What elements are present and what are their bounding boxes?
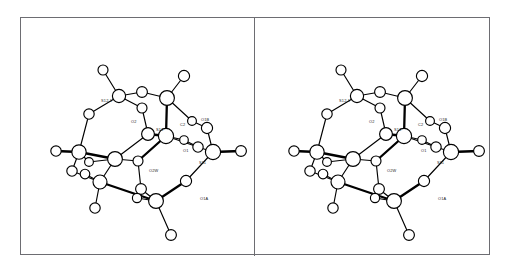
atom-ellipsoid	[387, 194, 402, 209]
atom-ellipsoid	[328, 203, 338, 213]
figure-root: S12.1O2S12C2O1BO1S11ClO2WO1A S12.1O2S12C…	[0, 0, 506, 278]
atom-ellipsoid	[149, 194, 164, 209]
bond	[100, 182, 156, 201]
molecule-drawing-left: S12.1O2S12C2O1BO1S11ClO2WO1A	[21, 18, 254, 256]
molecule-drawing-right: S12.1O2S12C2O1BO1S11ClO2WO1A	[255, 18, 488, 256]
atom-label-o1b: O1B	[439, 117, 448, 122]
atom-ellipsoid	[137, 87, 148, 98]
atom-ellipsoid	[418, 136, 427, 145]
atom-ellipsoid	[90, 203, 100, 213]
atom-ellipsoid	[375, 87, 386, 98]
atom-ellipsoid	[236, 146, 247, 157]
atom-ellipsoid	[205, 144, 220, 159]
atom-label-o1a: O1A	[438, 196, 447, 201]
atom-ellipsoid	[443, 144, 458, 159]
atom-label-s11: S11	[437, 160, 444, 165]
atom-label-o1a: O1A	[200, 196, 209, 201]
atom-label-o2: O2	[131, 119, 137, 124]
atom-ellipsoid	[289, 146, 299, 156]
atom-ellipsoid	[305, 166, 315, 176]
stereo-figure-frame: S12.1O2S12C2O1BO1S11ClO2WO1A S12.1O2S12C…	[20, 17, 490, 255]
atom-ellipsoid	[416, 70, 427, 81]
atom-ellipsoid	[371, 156, 381, 166]
atom-ellipsoid	[431, 142, 441, 152]
atom-ellipsoid	[370, 193, 379, 202]
atom-ellipsoid	[160, 91, 175, 106]
atom-ellipsoid	[418, 175, 429, 186]
atom-ellipsoid	[72, 145, 86, 159]
atom-ellipsoid	[166, 230, 177, 241]
atom-label-o1b: O1B	[201, 117, 210, 122]
atom-label-s12p: S12.1	[101, 98, 112, 103]
atom-ellipsoid	[426, 117, 435, 126]
atom-ellipsoid	[380, 128, 393, 141]
label-group: S12.1O2S12C2O1BO1S11ClO2WO1A	[339, 98, 488, 201]
atom-ellipsoid	[180, 175, 191, 186]
atom-ellipsoid	[201, 122, 212, 133]
atom-ellipsoid	[323, 158, 332, 167]
atom-ellipsoid	[142, 128, 155, 141]
atom-label-s11: S11	[199, 160, 206, 165]
atom-ellipsoid	[108, 152, 123, 167]
bond	[338, 182, 394, 201]
atom-ellipsoid	[112, 89, 125, 102]
atom-ellipsoid	[93, 175, 107, 189]
atom-ellipsoid	[67, 166, 77, 176]
stereo-view-right: S12.1O2S12C2O1BO1S11ClO2WO1A	[255, 18, 488, 256]
atom-ellipsoid	[374, 184, 385, 195]
stereo-view-left: S12.1O2S12C2O1BO1S11ClO2WO1A	[21, 18, 254, 256]
atom-ellipsoid	[318, 169, 328, 179]
atom-ellipsoid	[398, 91, 413, 106]
atom-label-o2w: O2W	[149, 168, 159, 173]
atom-ellipsoid	[84, 109, 94, 119]
atom-ellipsoid	[133, 156, 143, 166]
atom-ellipsoid	[178, 70, 189, 81]
atom-ellipsoid	[137, 103, 147, 113]
atom-label-o2: O2	[369, 119, 375, 124]
atom-ellipsoid	[98, 65, 108, 75]
atom-label-c2: C2	[180, 122, 185, 127]
atom-ellipsoid	[188, 117, 197, 126]
atom-ellipsoid	[310, 145, 324, 159]
atom-ellipsoid	[180, 136, 189, 145]
atom-ellipsoid	[80, 169, 90, 179]
atom-ellipsoid	[474, 146, 485, 157]
atom-label-o1: O1	[421, 148, 427, 153]
atom-label-s12p: S12.1	[339, 98, 350, 103]
atom-label-s12: S12	[156, 127, 164, 132]
atom-ellipsoid	[132, 193, 141, 202]
atom-ellipsoid	[375, 103, 385, 113]
atom-ellipsoid	[346, 152, 361, 167]
atom-label-s12: S12	[394, 127, 402, 132]
atom-ellipsoid	[336, 65, 346, 75]
atom-ellipsoid	[136, 184, 147, 195]
atom-label-c2: C2	[418, 122, 423, 127]
atom-ellipsoid	[350, 89, 363, 102]
atom-label-o2w: O2W	[387, 168, 397, 173]
atom-label-o1: O1	[183, 148, 189, 153]
atom-ellipsoid	[404, 230, 415, 241]
atom-ellipsoid	[193, 142, 203, 152]
atom-ellipsoid	[439, 122, 450, 133]
atom-ellipsoid	[51, 146, 61, 156]
atom-ellipsoid	[322, 109, 332, 119]
atom-ellipsoid	[331, 175, 345, 189]
atom-ellipsoid	[85, 158, 94, 167]
